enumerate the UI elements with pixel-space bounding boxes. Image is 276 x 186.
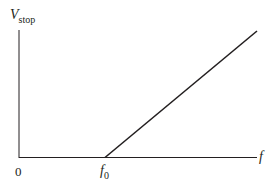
- origin-label: 0: [15, 165, 22, 178]
- data-line: [105, 31, 257, 158]
- f0-tick-label: f0: [100, 164, 109, 181]
- x-axis-label: f: [259, 150, 263, 164]
- y-axis-label: Vstop: [10, 8, 35, 25]
- y-axis-label-sub: stop: [19, 14, 36, 25]
- f0-sub: 0: [104, 170, 109, 181]
- y-axis-label-main: V: [10, 7, 19, 22]
- plot-canvas: [0, 0, 276, 186]
